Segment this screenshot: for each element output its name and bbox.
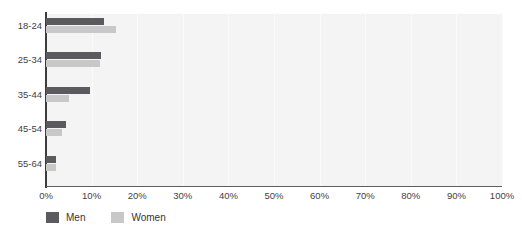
bar-men-45-54[interactable]: [46, 121, 66, 128]
clipped-title-sliver: [0, 0, 522, 9]
legend-swatch-icon: [46, 212, 59, 223]
bar-men-35-44[interactable]: [46, 87, 90, 94]
bar-women-55-64[interactable]: [46, 164, 56, 171]
x-tick-label-70%: 70%: [356, 190, 375, 201]
bar-group: [0, 121, 522, 155]
x-tick-label-20%: 20%: [128, 190, 147, 201]
bar-women-45-54[interactable]: [46, 129, 62, 136]
legend-item-men[interactable]: Men: [46, 212, 85, 223]
x-tick-label-90%: 90%: [447, 190, 466, 201]
x-tick-label-50%: 50%: [264, 190, 283, 201]
bar-chart: 18-2425-3435-4445-5455-64 0%10%20%30%40%…: [0, 0, 522, 242]
bar-group: [0, 87, 522, 121]
bar-women-18-24[interactable]: [46, 26, 116, 33]
x-tick-label-60%: 60%: [310, 190, 329, 201]
x-tick-label-40%: 40%: [219, 190, 238, 201]
legend-swatch-icon: [111, 212, 124, 223]
legend-item-women[interactable]: Women: [111, 212, 165, 223]
bar-women-25-34[interactable]: [46, 60, 100, 67]
y-tick-label-25-34: 25-34: [0, 54, 42, 65]
x-tick-label-100%: 100%: [490, 190, 514, 201]
y-tick-label-35-44: 35-44: [0, 89, 42, 100]
bar-women-35-44[interactable]: [46, 95, 69, 102]
bar-men-18-24[interactable]: [46, 18, 104, 25]
legend-label: Women: [131, 212, 165, 223]
clipped-title-text: [42, 0, 45, 2]
x-tick-label-30%: 30%: [173, 190, 192, 201]
bar-group: [0, 156, 522, 190]
y-tick-label-45-54: 45-54: [0, 123, 42, 134]
x-tick-label-80%: 80%: [401, 190, 420, 201]
bar-men-55-64[interactable]: [46, 156, 56, 163]
bar-group: [0, 52, 522, 86]
y-tick-label-55-64: 55-64: [0, 158, 42, 169]
y-tick-label-18-24: 18-24: [0, 20, 42, 31]
bar-group: [0, 18, 522, 52]
legend-label: Men: [66, 212, 85, 223]
bar-men-25-34[interactable]: [46, 52, 101, 59]
x-tick-label-0%: 0%: [39, 190, 53, 201]
chart-legend: MenWomen: [46, 212, 166, 223]
x-tick-label-10%: 10%: [82, 190, 101, 201]
